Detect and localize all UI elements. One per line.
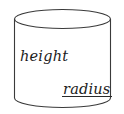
cylinder-figure: height radius <box>0 0 124 114</box>
cylinder-bottom-arc <box>15 98 111 108</box>
radius-label: radius <box>63 82 110 97</box>
radius-segment-line <box>62 96 112 97</box>
height-label: height <box>20 49 68 64</box>
cylinder-top-ellipse <box>15 10 111 29</box>
